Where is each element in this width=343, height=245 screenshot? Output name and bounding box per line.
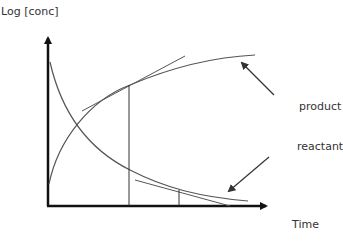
reactant-annotation: reactant [297, 140, 343, 153]
product-pointer-arrow [242, 63, 274, 95]
reactant-tangent [135, 180, 230, 206]
reactant-curve [50, 62, 248, 201]
x-axis-label: Time [292, 218, 319, 231]
product-curve [49, 55, 255, 184]
y-axis-label: Log [conc] [1, 5, 59, 18]
product-tangent [82, 56, 185, 111]
reactant-pointer-arrow [229, 157, 269, 191]
product-annotation: product [299, 100, 341, 113]
